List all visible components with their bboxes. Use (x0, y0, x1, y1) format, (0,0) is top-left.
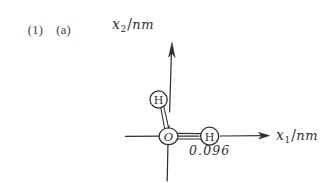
x-axis-label-symbol: x (276, 127, 284, 143)
atom-oxygen: O (159, 128, 178, 145)
x-axis-label-unit: nm (296, 128, 318, 143)
y-axis-line (167, 47, 171, 182)
figure-page: (1)(a) O H (0, 0, 334, 183)
axes-group (126, 43, 270, 182)
x-axis-line (126, 136, 268, 137)
atom-hydrogen-right-symbol: H (205, 131, 215, 144)
x-axis-label: x1/nm (276, 128, 318, 145)
y-axis-label-unit: nm (132, 17, 154, 32)
molecule-diagram: O H H (0, 0, 334, 183)
bond-oxygen-hydrogen-upper (161, 107, 169, 129)
y-axis-label-symbol: x (112, 16, 120, 32)
atom-hydrogen-upper: H (150, 91, 167, 108)
y-axis-label-subscript: 2 (120, 24, 127, 34)
x-axis-label-subscript: 1 (284, 135, 291, 145)
atom-hydrogen-upper-symbol: H (154, 94, 164, 107)
y-axis-label: x2/nm (112, 17, 154, 34)
atom-oxygen-symbol: O (164, 130, 174, 144)
bond-length-label: 0.096 (189, 143, 230, 158)
